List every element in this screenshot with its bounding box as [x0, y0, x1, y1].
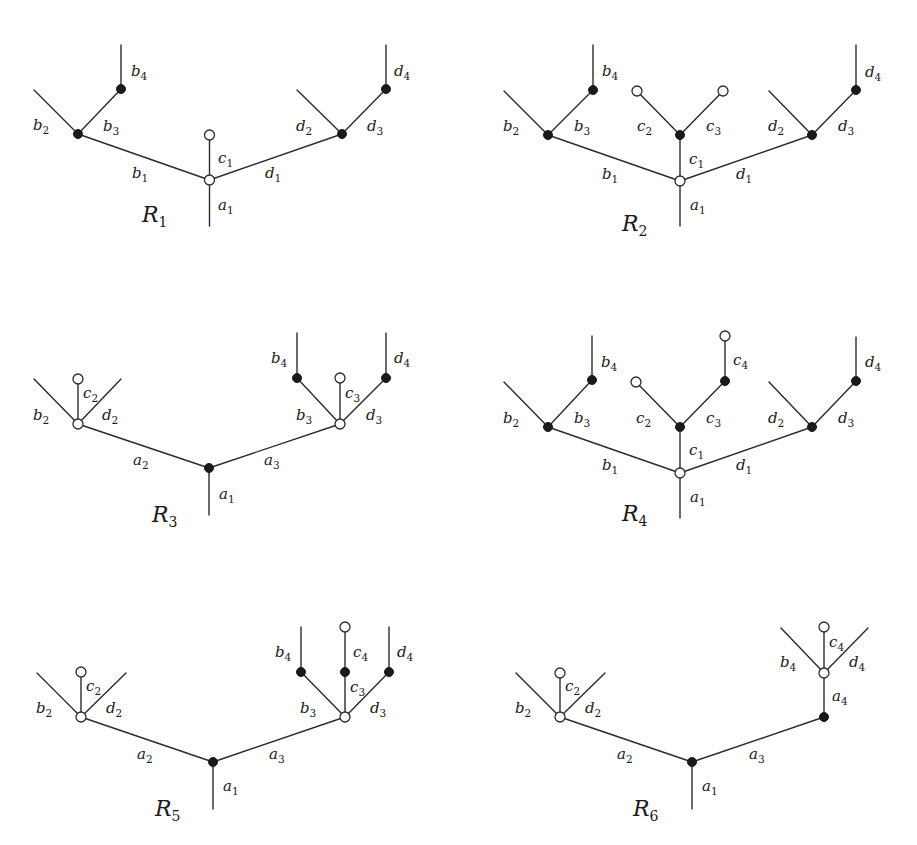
edge-label-a3: a3	[269, 745, 285, 765]
edge-label-c2: c2	[637, 117, 652, 137]
edge-label-d2: d2	[768, 117, 784, 137]
open-node-rnode	[340, 712, 350, 722]
filled-node-root	[209, 758, 218, 767]
edge-label-d4: d4	[865, 63, 882, 83]
diagram-r1: a1c1b1b2b3b4d1d2d3d4R1	[33, 45, 411, 230]
edge-label-b3: b3	[300, 699, 316, 719]
edge-label-b1: b1	[132, 164, 148, 184]
diagram-title-r2: R2	[621, 211, 648, 239]
edge-label-a3: a3	[264, 451, 280, 471]
edge-label-b4: b4	[131, 62, 148, 82]
edge-label-d1: d1	[736, 456, 752, 476]
diagram-title-r6: R6	[632, 796, 659, 824]
edge-label-b3: b3	[574, 409, 590, 429]
diagram-group: a1c1b1b2b3b4d1d2d3d4R1a1c1c2c3b1b2b3b4d1…	[33, 45, 882, 824]
open-node-root	[205, 175, 215, 185]
filled-node-dnode	[808, 423, 817, 432]
edge-label-c3: c3	[345, 384, 360, 404]
open-node-c2top	[73, 374, 83, 384]
edge-label-a4: a4	[832, 687, 848, 707]
edge-label-c2: c2	[636, 409, 651, 429]
edge-label-c2: c2	[565, 677, 580, 697]
diagram-title-r4: R4	[621, 501, 648, 529]
filled-node-d3node	[382, 374, 391, 383]
edge-label-d4: d4	[865, 353, 882, 373]
open-node-lnode	[73, 419, 83, 429]
edge-label-c1: c1	[689, 150, 704, 170]
edge-label-c3: c3	[706, 117, 721, 137]
edge-label-d3: d3	[367, 117, 383, 137]
open-node-c2top	[555, 668, 565, 678]
edge-label-b2: b2	[36, 699, 52, 719]
diagram-title-r5: R5	[154, 796, 181, 824]
open-node-c2top	[631, 377, 641, 387]
open-node-c2top	[632, 86, 642, 96]
edge-label-b2: b2	[33, 116, 49, 136]
filled-node-dnode	[338, 130, 347, 139]
edge-label-b4: b4	[780, 653, 797, 673]
filled-node-b3node	[588, 376, 597, 385]
edge-label-b4: b4	[602, 62, 619, 82]
edge-label-a2: a2	[133, 451, 149, 471]
open-node-c1top	[205, 130, 215, 140]
diagram-r6: a1a2b2c2d2a3a4b4c4d4R6	[515, 622, 868, 824]
edge-label-c1: c1	[218, 149, 233, 169]
edge-label-d2: d2	[585, 699, 601, 719]
edge-label-b1: b1	[602, 456, 618, 476]
filled-node-cnode	[676, 131, 685, 140]
open-node-a4node	[819, 668, 829, 678]
edge-label-c4: c4	[829, 633, 844, 653]
edge-label-d4: d4	[394, 62, 411, 82]
edge-label-b3: b3	[103, 117, 119, 137]
diagram-r2: a1c1c2c3b1b2b3b4d1d2d3d4R2	[503, 45, 882, 239]
filled-node-c3node	[721, 377, 730, 386]
open-node-c3top	[335, 373, 345, 383]
edge-label-d2: d2	[296, 117, 312, 137]
tree-diagrams-figure: a1c1b1b2b3b4d1d2d3d4R1a1c1c2c3b1b2b3b4d1…	[0, 0, 917, 845]
open-node-c4top	[819, 622, 829, 632]
edge-label-a2: a2	[137, 745, 153, 765]
open-node-c3top	[718, 86, 728, 96]
edge-label-b2: b2	[503, 409, 519, 429]
edge-label-d1: d1	[736, 165, 752, 185]
edge-label-b4: b4	[271, 349, 288, 369]
edge-label-b2: b2	[33, 406, 49, 426]
edge-label-c2: c2	[83, 384, 98, 404]
edge-label-d2: d2	[106, 699, 122, 719]
edge-label-c2: c2	[86, 677, 101, 697]
edge-label-a1: a1	[218, 196, 234, 216]
diagram-r3: a1a2b2c2d2a3b3b4c3d3d4R3	[33, 333, 411, 530]
filled-node-root	[205, 464, 214, 473]
edge-label-c3: c3	[706, 409, 721, 429]
open-node-c2top	[76, 667, 86, 677]
filled-node-b3node	[589, 86, 598, 95]
diagram-r5: a1a2b2c2d2a3b3b4c3c4d3d4R5	[36, 622, 414, 824]
edge-label-d3: d3	[838, 409, 854, 429]
edge-label-b4: b4	[275, 643, 292, 663]
filled-node-a3node	[820, 713, 829, 722]
edge-label-c1: c1	[689, 441, 704, 461]
edge-label-b3: b3	[296, 406, 312, 426]
edge-label-a1: a1	[690, 196, 706, 216]
edge-label-a1: a1	[690, 488, 706, 508]
edge-label-c4: c4	[733, 351, 748, 371]
filled-node-b3node	[117, 85, 126, 94]
filled-node-b3node	[293, 374, 302, 383]
edge-label-a1: a1	[219, 485, 235, 505]
edge-label-a2: a2	[617, 745, 633, 765]
filled-node-d3node	[385, 668, 394, 677]
edge-label-a3: a3	[749, 745, 765, 765]
filled-node-d3node	[852, 377, 861, 386]
open-node-c4top	[340, 622, 350, 632]
edge-label-d3: d3	[370, 699, 386, 719]
edge-label-b4: b4	[601, 353, 618, 373]
edge-label-d3: d3	[838, 117, 854, 137]
diagram-title-r3: R3	[151, 502, 178, 530]
edge-label-b2: b2	[515, 699, 531, 719]
edge-label-d2: d2	[102, 406, 118, 426]
open-node-c4top	[720, 331, 730, 341]
edge-label-d4: d4	[394, 349, 411, 369]
edge-label-c4: c4	[353, 643, 368, 663]
filled-node-bnode	[544, 131, 553, 140]
edge-label-b1: b1	[602, 165, 618, 185]
